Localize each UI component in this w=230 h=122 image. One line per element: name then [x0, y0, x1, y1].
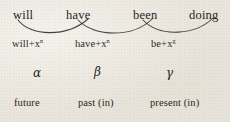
greek-label-alpha: α: [33, 67, 41, 79]
tense-label-future: future: [14, 98, 40, 109]
figure-canvas: will have been doing will+xn have+xn be+…: [0, 0, 230, 122]
auxiliary-will: will: [13, 9, 33, 22]
formula-be-base: be+x: [151, 38, 172, 49]
formula-will: will+xn: [12, 39, 43, 50]
auxiliary-been: been: [133, 9, 157, 22]
formula-have: have+xn: [75, 39, 110, 50]
formula-be-superscript: g: [172, 37, 175, 44]
greek-label-gamma: γ: [166, 67, 173, 79]
greek-label-beta: β: [94, 66, 101, 78]
auxiliary-doing: doing: [189, 9, 218, 22]
formula-be: be+xg: [151, 39, 176, 50]
tense-label-past: past (in): [78, 98, 114, 109]
auxiliary-have: have: [66, 9, 90, 22]
formula-have-base: have+x: [75, 38, 107, 49]
formula-have-superscript: n: [107, 37, 110, 44]
tense-label-present: present (in): [150, 98, 199, 109]
formula-will-base: will+x: [12, 38, 40, 49]
formula-will-superscript: n: [40, 37, 43, 44]
